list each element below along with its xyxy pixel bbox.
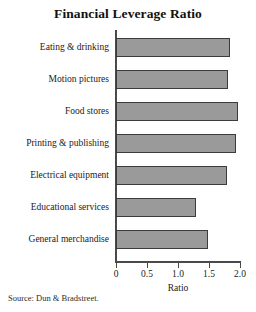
financial-leverage-ratio-chart: Financial Leverage Ratio Eating & drinki… [0,0,256,312]
category-label: Printing & publishing [0,138,109,149]
category-label: Motion pictures [0,74,109,85]
x-axis-tick [116,263,117,268]
x-axis-tick [240,263,241,268]
category-label: Educational services [0,202,109,213]
category-label: Electrical equipment [0,170,109,181]
bar-electrical-equipment [116,166,227,185]
x-axis-title: Ratio [116,283,240,293]
plot-area: Eating & drinkingMotion picturesFood sto… [0,0,256,312]
x-axis-tick [147,263,148,268]
bar-eating-drinking [116,38,230,57]
source-note: Source: Dun & Bradstreet. [8,293,99,303]
bar-motion-pictures [116,70,228,89]
category-label: Eating & drinking [0,42,109,53]
category-label: General merchandise [0,234,109,245]
bar-food-stores [116,102,238,121]
bar-general-merchandise [116,230,208,249]
category-label: Food stores [0,106,109,117]
bar-printing-publishing [116,134,236,153]
x-axis-tick-label: 2.0 [220,269,256,279]
x-axis-tick [209,263,210,268]
x-axis-tick [178,263,179,268]
bar-educational-services [116,198,196,217]
